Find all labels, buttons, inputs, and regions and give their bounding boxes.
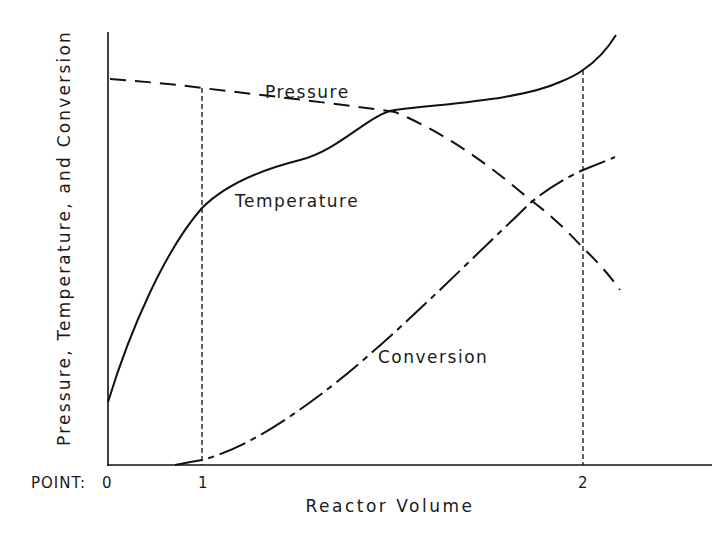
temperature-label: Temperature [234, 191, 359, 211]
x-axis-title: Reactor Volume [306, 496, 475, 516]
conversion-label: Conversion [378, 347, 488, 367]
y-axis-title: Pressure, Temperature, and Conversion [54, 30, 74, 446]
x-tick-2: 2 [578, 474, 588, 492]
pressure-label: Pressure [265, 82, 350, 102]
x-tick-0: 0 [102, 474, 112, 492]
x-tick-1: 1 [198, 474, 208, 492]
chart-canvas: Pressure Temperature Conversion POINT: 0… [0, 0, 714, 539]
point-prefix-label: POINT: [31, 474, 86, 492]
temperature-curve [108, 35, 616, 402]
pressure-curve [110, 79, 620, 290]
